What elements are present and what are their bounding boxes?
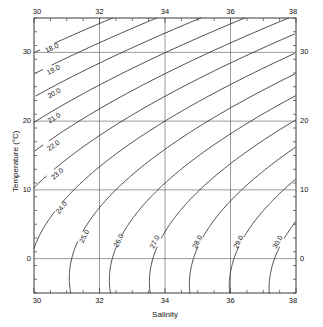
x-tick-label-bottom: 30 (33, 296, 41, 305)
y-axis-title: Temperature (°C) (11, 130, 20, 191)
contour-label: 22.0 (46, 138, 61, 152)
contour-label: 18.0 (44, 42, 59, 54)
x-tick-label-bottom: 32 (95, 296, 103, 305)
x-tick-label-top: 34 (161, 7, 169, 16)
contour-label: 25.0 (78, 229, 90, 244)
y-tick-label-right: 0 (300, 254, 304, 263)
y-tick-label-right: 20 (300, 116, 308, 125)
y-tick-label-right: 30 (300, 47, 308, 56)
x-tick-label-bottom: 36 (226, 296, 234, 305)
x-tick-label-top: 38 (289, 7, 297, 16)
contour-label: 24.0 (54, 200, 68, 215)
contour-label: 19.0 (46, 63, 61, 75)
y-tick-label-left: 0 (27, 254, 31, 263)
contour-label: 23.0 (50, 166, 65, 180)
plot-area: 18.019.020.021.022.023.024.025.026.027.0… (0, 0, 323, 327)
x-tick-label-top: 30 (33, 7, 41, 16)
contour-label: 30.0 (271, 234, 284, 249)
y-tick-label-right: 10 (300, 185, 308, 194)
x-tick-label-top: 36 (226, 7, 234, 16)
contour-label: 28.0 (191, 234, 203, 249)
ts-diagram-figure: 18.019.020.021.022.023.024.025.026.027.0… (0, 0, 323, 327)
x-tick-label-bottom: 38 (289, 296, 297, 305)
contour-label: 29.0 (232, 234, 245, 249)
x-axis-title: Salinity (152, 310, 178, 319)
contour-label: 27.0 (148, 234, 160, 249)
y-tick-label-left: 20 (23, 116, 31, 125)
y-tick-label-left: 30 (23, 47, 31, 56)
x-tick-label-top: 32 (95, 7, 103, 16)
y-tick-label-left: 10 (23, 185, 31, 194)
x-tick-label-bottom: 34 (161, 296, 169, 305)
contour-label: 26.0 (112, 233, 124, 248)
